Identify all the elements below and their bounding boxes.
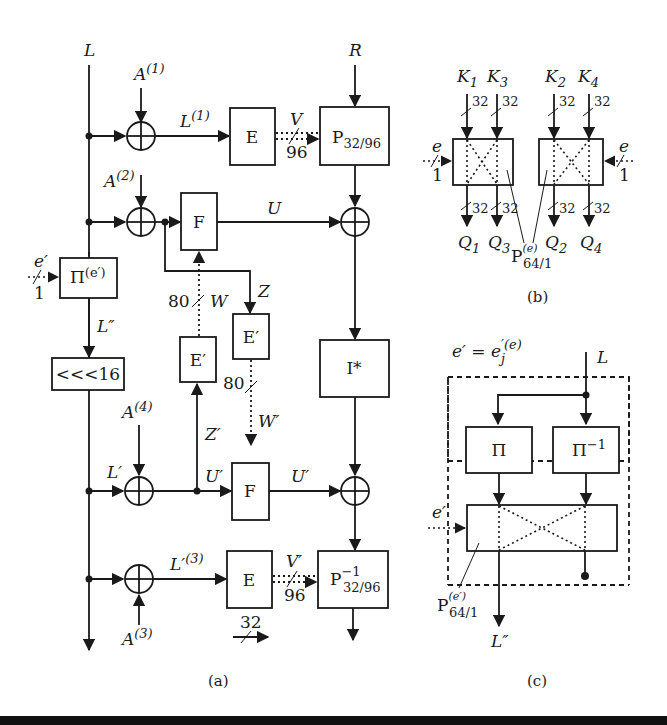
width-label: 32 <box>594 94 611 109</box>
block-rotate-label: <<<16 <box>56 364 120 384</box>
key-k1-label: K1 <box>456 66 478 90</box>
bus-slash <box>192 295 204 307</box>
width-label: 32 <box>594 201 611 216</box>
width-label: 32 <box>502 94 519 109</box>
width-label: 32 <box>472 201 489 216</box>
signal-e-prime-label: e′ <box>34 251 48 271</box>
block-f-top-label: F <box>193 212 205 232</box>
bus-slash <box>583 202 593 210</box>
key-k3-label: K3 <box>486 66 508 90</box>
input-r-label: R <box>348 40 362 60</box>
panel-a: L A(1) L(1) E V 96 R P32/96 A(2) <box>28 40 389 690</box>
signal-l1-label: L(1) <box>179 108 210 131</box>
signal-v-prime-label: V′ <box>286 551 302 571</box>
cipher-block-diagram: L A(1) L(1) E V 96 R P32/96 A(2) <box>0 0 667 725</box>
signal-e-prime-width: 1 <box>34 283 45 303</box>
signal-u-prime-out-label: U′ <box>291 466 309 486</box>
const-a3-label: A(3) <box>120 626 153 649</box>
signal-v-width: 96 <box>286 142 308 162</box>
signal-v-label: V <box>290 109 304 129</box>
output-q1-label: Q1 <box>458 232 480 256</box>
input-l-label-c: L <box>596 347 608 367</box>
block-pi-c-label: Π <box>492 440 507 460</box>
signal-w-label: W <box>210 291 229 311</box>
control-e-prime-label: e′ <box>432 502 446 522</box>
block-e-bottom-label: E <box>243 570 255 590</box>
control-e-left-label: e <box>432 136 442 156</box>
signal-w-prime-width: 80 <box>223 373 245 393</box>
panel-c: e′ = ej′(e) L Π Π−1 e′ L″ P(e′) <box>428 337 629 690</box>
signal-u-label: U <box>267 198 282 218</box>
bus-slash <box>461 202 471 210</box>
block-e-prime-left-label: E′ <box>190 350 206 370</box>
switch-box-right <box>539 139 603 185</box>
output-q3-label: Q3 <box>488 232 510 256</box>
switch-box-left <box>453 139 513 185</box>
control-width-right: 1 <box>619 165 630 185</box>
panel-b: K1 K3 K2 K4 32 32 32 32 e 1 e <box>423 66 633 306</box>
signal-z-prime-label: Z′ <box>204 424 221 444</box>
equation-label: e′ = ej′(e) <box>452 337 522 366</box>
block-f-bottom-label: F <box>244 481 256 501</box>
input-l-label: L <box>83 40 95 60</box>
page-rule <box>0 716 667 725</box>
xor-3 <box>125 565 153 593</box>
const-a2-label: A(2) <box>102 168 135 191</box>
xor-1 <box>127 122 155 150</box>
signal-w-width: 80 <box>168 291 190 311</box>
signal-v-prime-width: 96 <box>284 585 306 605</box>
output-l-dprime-label: L″ <box>490 631 509 651</box>
signal-u-prime-in-label: U′ <box>205 466 223 486</box>
width-label: 32 <box>559 94 576 109</box>
signal-l-prime-label: L′ <box>106 462 122 482</box>
branch-line <box>498 395 586 424</box>
key-k2-label: K2 <box>544 66 566 90</box>
bus-slash <box>461 108 471 116</box>
xor-right-bottom <box>341 477 369 505</box>
xor-2 <box>127 208 155 236</box>
control-width-left: 1 <box>432 165 443 185</box>
terminator-dot <box>581 572 589 580</box>
bus-slash <box>548 108 558 116</box>
block-e-prime-right-label: E′ <box>243 327 259 347</box>
control-e-right-label: e <box>619 136 629 156</box>
signal-l3-label: L′(3) <box>169 551 204 574</box>
bus-slash <box>583 108 593 116</box>
switch-c-label: P(e′)64/1 <box>437 590 478 620</box>
signal-w-prime-label: W′ <box>258 411 279 431</box>
signal-l-dprime-label: L″ <box>96 316 115 336</box>
bus-slash <box>491 108 501 116</box>
xor-4 <box>125 477 153 505</box>
signal-z-label: Z <box>257 281 271 301</box>
key-k4-label: K4 <box>577 66 599 90</box>
block-i-star-label: I* <box>346 358 362 378</box>
width-label: 32 <box>559 201 576 216</box>
bus-slash <box>548 202 558 210</box>
caption-c: (c) <box>527 672 547 690</box>
output-q2-label: Q2 <box>545 232 567 256</box>
const-a1-label: A(1) <box>132 61 165 84</box>
bus-slash <box>491 202 501 210</box>
caption-b: (b) <box>527 288 548 306</box>
block-e-top-label: E <box>246 127 258 147</box>
width-label: 32 <box>472 94 489 109</box>
output-q4-label: Q4 <box>580 232 602 256</box>
caption-a: (a) <box>208 672 229 690</box>
const-a4-label: A(4) <box>120 399 153 422</box>
switch-box-c <box>467 505 617 551</box>
bus-legend-width: 32 <box>240 612 262 632</box>
xor-right-top <box>341 208 369 236</box>
